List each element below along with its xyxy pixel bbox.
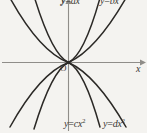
curve-label-exponent: 2 — [119, 0, 122, 1]
origin-label: O — [60, 64, 67, 73]
curve-label-exponent: 2 — [80, 0, 83, 1]
curve-label-y-equals-d-x-squared: y=dx2 — [103, 119, 125, 129]
curve-label-y-equals-b-x-squared: y=bx2 — [100, 0, 122, 6]
curve-label-y-equals-a-x-squared: y=ax2 — [61, 0, 83, 6]
x-axis-label: x — [136, 64, 140, 74]
curve-y-equals-b-x-squared-left — [10, 0, 69, 63]
coordinate-plane-svg — [0, 0, 147, 133]
curve-label-exponent: 2 — [122, 117, 125, 124]
parabola-family-figure: y x O y=ax2 y=bx2 y=cx2 y=dx2 — [0, 0, 147, 133]
curve-label-y-equals-c-x-squared: y=cx2 — [64, 119, 85, 129]
curve-label-exponent: 2 — [82, 117, 85, 124]
x-axis-arrowhead — [140, 59, 146, 65]
